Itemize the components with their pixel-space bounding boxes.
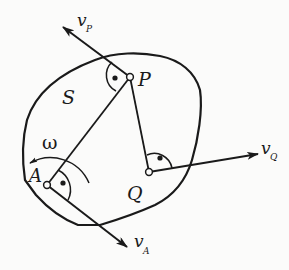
omega-label: ω xyxy=(42,131,58,153)
vector-label-va: v A xyxy=(134,231,150,256)
point-label-a: A xyxy=(27,165,42,186)
body-label-s: S xyxy=(62,86,75,108)
rigid-body-diagram: S P A Q ω v P v Q v A xyxy=(0,0,289,270)
point-label-q: Q xyxy=(127,182,143,204)
svg-text:Q: Q xyxy=(270,152,278,162)
point-a-marker xyxy=(44,182,51,189)
point-q-marker xyxy=(146,169,153,176)
point-p-marker xyxy=(127,74,134,81)
vector-label-vq: v Q xyxy=(261,138,278,162)
right-angle-marker-q xyxy=(147,153,172,168)
svg-text:P: P xyxy=(85,24,93,34)
radius-line-p-a xyxy=(47,77,130,185)
vector-label-vp: v P xyxy=(77,10,93,34)
radius-line-p-q xyxy=(130,77,149,172)
point-label-p: P xyxy=(137,68,152,90)
svg-text:A: A xyxy=(142,246,150,256)
